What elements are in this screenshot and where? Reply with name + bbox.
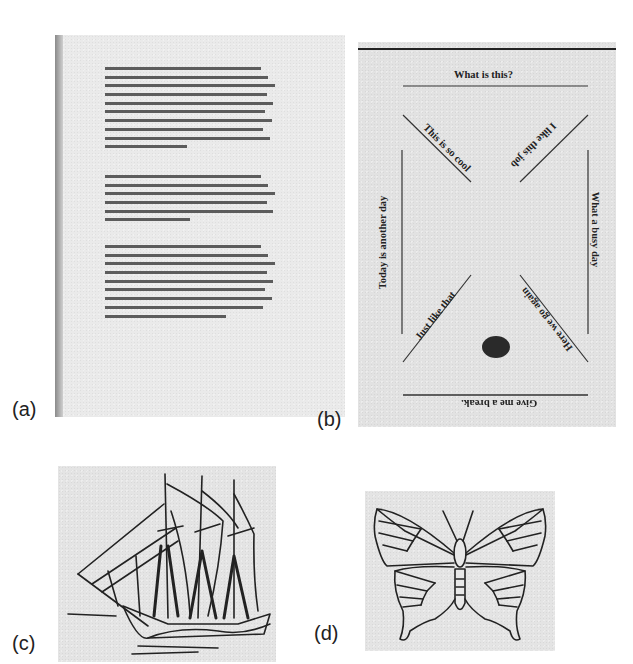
illegible-text-line	[105, 271, 267, 274]
panel-c-ship-drawing	[58, 466, 276, 662]
illegible-text-line	[105, 254, 268, 257]
illegible-text-line	[105, 280, 273, 283]
paragraph-3	[105, 245, 275, 323]
illegible-text-line	[105, 315, 226, 318]
illegible-text-line	[105, 218, 190, 221]
text-bottom: Give me a break.	[461, 398, 537, 409]
panel-label-a: (a)	[12, 398, 36, 421]
panel-b-annotated-sketch: What is this? This is so cool I like thi…	[358, 42, 616, 427]
panel-a-text-page	[55, 35, 345, 417]
illegible-text-line	[105, 76, 268, 79]
illegible-text-line	[105, 262, 275, 265]
illegible-text-line	[105, 210, 273, 213]
paragraph-2	[105, 175, 275, 227]
sailing-ship-illustration	[58, 466, 276, 662]
illegible-text-line	[105, 110, 265, 113]
illegible-text-line	[105, 184, 268, 187]
illegible-text-line	[105, 192, 275, 195]
illegible-text-line	[105, 67, 261, 70]
panel-label-b: (b)	[317, 408, 341, 431]
panel-label-c: (c)	[12, 632, 35, 655]
panel-label-d: (d)	[314, 622, 338, 645]
text-left-vertical: Today is another day	[377, 196, 388, 290]
illegible-text-line	[105, 102, 273, 105]
page-shadow-edge	[55, 35, 63, 417]
text-top: What is this?	[454, 69, 513, 80]
illegible-text-line	[105, 306, 263, 309]
illegible-text-line	[105, 297, 272, 300]
illegible-text-line	[105, 128, 263, 131]
illegible-text-line	[105, 201, 267, 204]
illegible-text-line	[105, 145, 187, 148]
butterfly-illustration	[365, 491, 555, 651]
sketch-lines	[358, 42, 616, 427]
illegible-text-line	[105, 137, 270, 140]
illegible-text-line	[105, 93, 267, 96]
text-right-vertical: What a busy day	[590, 192, 601, 268]
illegible-text-line	[105, 245, 261, 248]
illegible-text-line	[105, 288, 265, 291]
panel-d-butterfly-drawing	[365, 491, 555, 651]
illegible-text-line	[105, 175, 261, 178]
paragraph-1	[105, 67, 275, 154]
illegible-text-line	[105, 119, 272, 122]
illegible-text-line	[105, 84, 275, 87]
